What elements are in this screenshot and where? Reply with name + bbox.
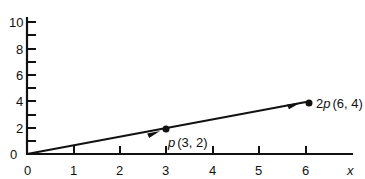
svg-text:0: 0 (24, 163, 31, 178)
x-axis-label: x (346, 163, 354, 178)
vector-plot: 0 2 4 6 8 10 0 1 2 3 4 5 6 x p(3, 2) 2p(… (0, 0, 365, 179)
x-tick-labels: 0 1 2 3 4 5 6 x (24, 163, 354, 178)
svg-text:4: 4 (16, 94, 23, 109)
y-tick-labels: 0 2 4 6 8 10 (9, 15, 23, 162)
y-ticks (27, 22, 36, 141)
svg-text:1: 1 (70, 163, 77, 178)
point-p (163, 126, 170, 133)
svg-text:2: 2 (116, 163, 123, 178)
svg-text:2: 2 (16, 121, 23, 136)
svg-text:4: 4 (209, 163, 216, 178)
svg-text:5: 5 (255, 163, 262, 178)
svg-text:10: 10 (9, 15, 23, 30)
label-2p: 2p(6, 4) (316, 96, 363, 111)
label-p: p(3, 2) (167, 135, 208, 150)
svg-text:6: 6 (16, 68, 23, 83)
svg-text:8: 8 (16, 42, 23, 57)
svg-text:3: 3 (162, 163, 169, 178)
point-2p (306, 100, 313, 107)
svg-text:6: 6 (302, 163, 309, 178)
svg-text:0: 0 (10, 147, 17, 162)
